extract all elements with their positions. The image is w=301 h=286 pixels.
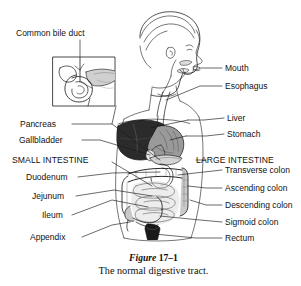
label-rectum: Rectum	[225, 233, 254, 243]
label-small-intestine: SMALL INTESTINE	[12, 155, 89, 165]
label-descending-colon: Descending colon	[225, 200, 293, 210]
label-common-bile-duct: Common bile duct	[16, 28, 85, 38]
label-large-intestine: LARGE INTESTINE	[196, 155, 274, 165]
label-gallbladder: Gallbladder	[19, 135, 62, 145]
label-stomach: Stomach	[227, 129, 261, 139]
label-duodenum: Duodenum	[26, 172, 68, 182]
biliary-detail-inset	[53, 57, 120, 106]
figure-caption-number: 17–1	[159, 252, 178, 263]
label-ileum: Ileum	[42, 210, 63, 220]
label-liver: Liver	[227, 113, 245, 123]
label-esophagus: Esophagus	[225, 81, 268, 91]
figure-caption-text: The normal digestive tract.	[0, 264, 301, 277]
oral-cavity-and-pharynx	[162, 60, 192, 94]
figure-container: Common bile duct Pancreas Gallbladder SM…	[0, 0, 301, 286]
figure-caption-prefix: Figure	[129, 252, 156, 263]
figure-caption: Figure 17–1 The normal digestive tract.	[0, 252, 301, 277]
label-appendix: Appendix	[30, 232, 65, 242]
label-pancreas: Pancreas	[20, 119, 56, 129]
abdominal-organs	[116, 119, 192, 252]
label-mouth: Mouth	[225, 63, 249, 73]
head-profile	[124, 12, 202, 119]
label-jejunum: Jejunum	[32, 191, 64, 201]
figure-caption-title: Figure 17–1	[0, 252, 301, 264]
label-ascending-colon: Ascending colon	[225, 183, 287, 193]
label-sigmoid-colon: Sigmoid colon	[225, 217, 278, 227]
label-transverse-colon: Transverse colon	[225, 165, 290, 175]
